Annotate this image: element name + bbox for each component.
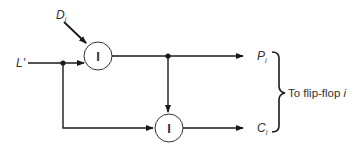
l-prime-branch-line xyxy=(63,63,153,128)
curly-brace xyxy=(272,52,285,132)
p-output-label: Pi xyxy=(257,49,267,64)
l-prime-label: L' xyxy=(16,56,26,70)
c-output-label: Ci xyxy=(257,121,268,136)
d-input-arrow xyxy=(64,22,86,43)
gate-bottom-symbol: I xyxy=(167,121,171,136)
d-input-label: Di xyxy=(56,8,67,23)
logic-diagram: Di L' I I Pi Ci To flip-flop i xyxy=(0,0,361,149)
gate-top: I xyxy=(84,42,112,70)
gate-bottom: I xyxy=(155,114,183,142)
gate-top-symbol: I xyxy=(96,49,100,64)
to-flip-flop-label: To flip-flop i xyxy=(288,87,347,99)
